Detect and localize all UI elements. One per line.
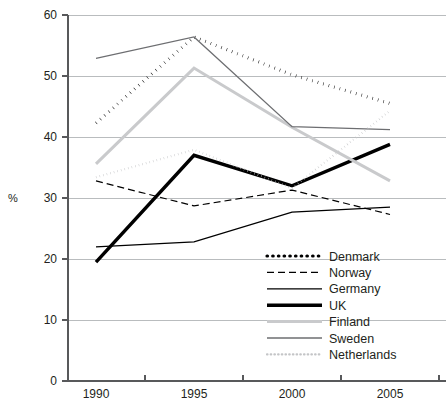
series-line-sweden	[96, 37, 390, 130]
y-tick-label: 60	[44, 8, 58, 22]
legend-label-finland: Finland	[329, 315, 370, 329]
y-tick-label: 20	[44, 252, 58, 266]
data-series-group	[96, 37, 390, 262]
y-tick-label: 40	[44, 130, 58, 144]
x-tick-label: 1995	[181, 387, 208, 401]
chart-legend: DenmarkNorwayGermanyUKFinlandSwedenNethe…	[267, 250, 396, 362]
line-chart-figure: 60 50 40 30 20 10 0 % 1990 1995 2000 200…	[0, 0, 446, 410]
gridlines	[68, 15, 446, 320]
x-tick-labels: 1990 1995 2000 2005	[83, 387, 404, 401]
x-tick-label: 1990	[83, 387, 110, 401]
y-axis	[62, 15, 68, 381]
chart-plot-area: 60 50 40 30 20 10 0 % 1990 1995 2000 200…	[0, 0, 446, 410]
y-axis-title: %	[8, 192, 18, 204]
x-tick-label: 2000	[279, 387, 306, 401]
y-tick-labels: 60 50 40 30 20 10 0	[44, 8, 58, 388]
x-axis	[68, 375, 446, 381]
series-line-denmark	[96, 37, 390, 123]
y-tick-label: 0	[50, 374, 57, 388]
legend-label-norway: Norway	[329, 266, 372, 280]
y-tick-label: 50	[44, 69, 58, 83]
legend-label-uk: UK	[329, 299, 347, 313]
y-tick-label: 30	[44, 191, 58, 205]
legend-label-germany: Germany	[329, 282, 381, 296]
x-tick-label: 2005	[377, 387, 404, 401]
legend-label-netherlands: Netherlands	[329, 348, 396, 362]
legend-label-sweden: Sweden	[329, 332, 374, 346]
legend-label-denmark: Denmark	[329, 250, 380, 264]
y-tick-label: 10	[44, 313, 58, 327]
